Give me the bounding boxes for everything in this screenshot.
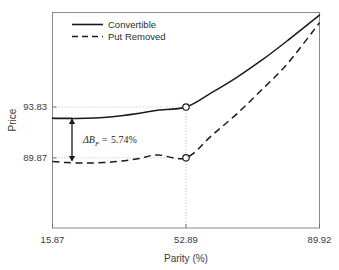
x-tick-label-1: 52.89: [174, 234, 198, 245]
chart-svg: ΔBF= 5.74% 15.87 52.89 89.92 93.83 89.87…: [0, 0, 339, 270]
y-axis-title: Price: [7, 108, 18, 131]
legend-label-put-removed: Put Removed: [108, 31, 166, 42]
legend-label-convertible: Convertible: [108, 19, 156, 30]
marker-convertible: [183, 104, 189, 110]
y-tick-label-1: 89.87: [23, 152, 47, 163]
y-tick-label-0: 93.83: [23, 101, 47, 112]
convertible-bond-price-chart: ΔBF= 5.74% 15.87 52.89 89.92 93.83 89.87…: [0, 0, 339, 270]
x-tick-label-0: 15.87: [41, 234, 65, 245]
x-tick-label-2: 89.92: [308, 234, 332, 245]
x-axis-title: Parity (%): [164, 253, 208, 264]
marker-put-removed: [183, 155, 189, 161]
